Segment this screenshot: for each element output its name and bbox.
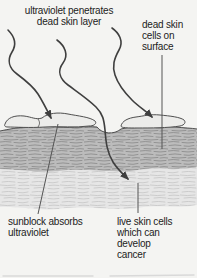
label-dead-skin-cells: dead skin cells on surface	[142, 19, 196, 52]
label-live-cells: live skin cells which can develop cancer	[117, 216, 195, 260]
dead-skin-layer	[0, 126, 197, 172]
skin-uv-diagram: ultraviolet penetrates dead skin layer d…	[0, 0, 197, 278]
page-crop-artifact	[3, 275, 194, 276]
uv-ray-left	[8, 30, 51, 118]
label-sunblock: sunblock absorbs ultraviolet	[8, 216, 108, 238]
label-uv-penetrates: ultraviolet penetrates dead skin layer	[10, 5, 128, 27]
dead-skin-cell-right	[121, 115, 185, 128]
